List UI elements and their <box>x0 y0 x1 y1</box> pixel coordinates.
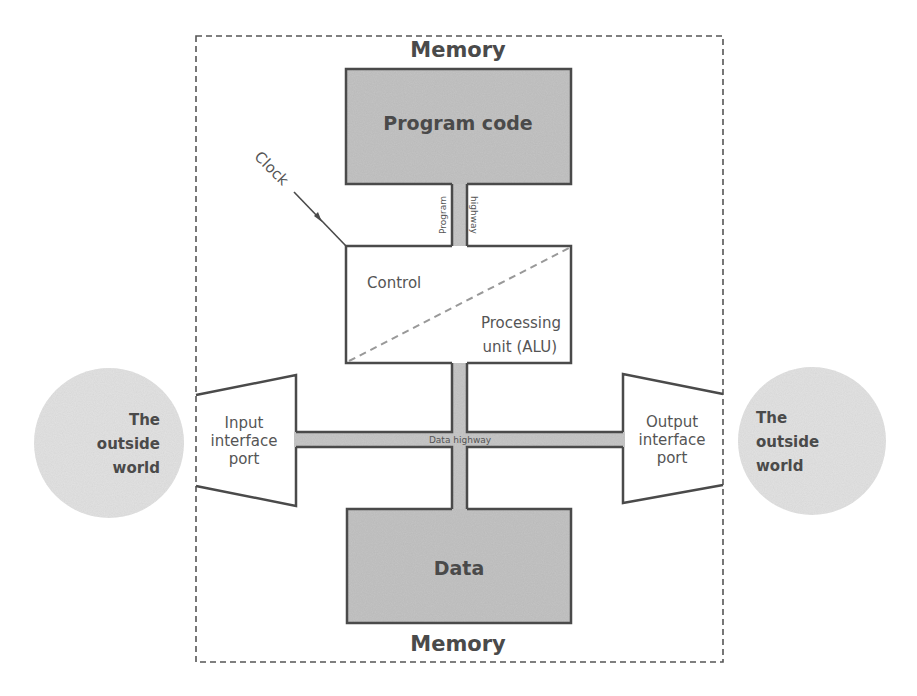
memory-top-label: Memory <box>410 38 506 62</box>
outside-world-right-line2: outside <box>756 433 819 451</box>
outside-world-right-line3: world <box>756 457 803 475</box>
processing-label-line1: Processing <box>481 314 561 332</box>
input-port-line2: interface <box>211 432 278 450</box>
data-label: Data <box>434 557 485 579</box>
outside-world-left-line2: outside <box>97 435 160 453</box>
output-port-line3: port <box>657 449 688 467</box>
processing-label-line2: unit (ALU) <box>483 338 557 356</box>
program-highway-right-label: highway <box>469 196 479 234</box>
memory-bottom-label: Memory <box>410 632 506 656</box>
outside-world-left-line1: The <box>129 411 160 429</box>
output-port-line1: Output <box>646 413 698 431</box>
program-highway-left-label: Program <box>438 196 448 234</box>
control-label: Control <box>367 274 421 292</box>
clock-label: Clock <box>251 148 293 190</box>
outside-world-left-line3: world <box>113 459 160 477</box>
input-port-line3: port <box>229 450 260 468</box>
input-port-line1: Input <box>225 414 264 432</box>
program-code-label: Program code <box>383 112 532 134</box>
output-port-line2: interface <box>639 431 706 449</box>
outside-world-right-line1: The <box>756 409 787 427</box>
data-highway-label: Data highway <box>429 435 492 445</box>
program-highway <box>452 183 467 247</box>
computer-architecture-diagram: Memory Memory Program code Data Program … <box>0 0 917 696</box>
